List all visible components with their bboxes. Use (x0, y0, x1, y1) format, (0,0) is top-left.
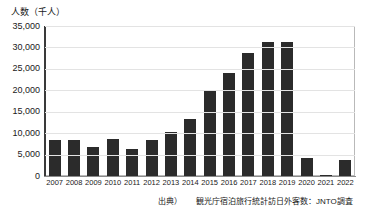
gridline (45, 112, 355, 113)
bars-layer (45, 26, 355, 176)
bar (223, 73, 235, 176)
x-axis-tick-label: 2019 (278, 178, 297, 188)
source-label: 出典） (158, 197, 182, 206)
y-axis-tick-label: 35,000 (2, 22, 40, 31)
x-axis-tick-label: 2014 (181, 178, 200, 188)
gridline (45, 155, 355, 156)
y-axis-tick-label: 25,000 (2, 64, 40, 73)
x-axis-tick-label: 2007 (45, 178, 64, 188)
x-axis-tick-label: 2012 (142, 178, 161, 188)
bar (146, 140, 158, 176)
x-axis-tick-label: 2008 (64, 178, 83, 188)
y-axis-tick-label: 15,000 (2, 107, 40, 116)
bar (68, 140, 80, 176)
y-axis-tick-label: 0 (2, 172, 40, 181)
gridline (45, 69, 355, 70)
x-axis-tick-label: 2015 (200, 178, 219, 188)
x-axis-tick-label: 2021 (316, 178, 335, 188)
bar (126, 149, 138, 176)
bar (49, 140, 61, 176)
x-axis-line (44, 176, 356, 177)
x-axis-tick-label: 2022 (336, 178, 355, 188)
x-axis-tick-label: 2017 (239, 178, 258, 188)
bar (242, 53, 254, 176)
x-axis-tick-label: 2020 (297, 178, 316, 188)
source-text: 観光庁宿泊旅行統計訪日外客数：JNTO調査 (196, 197, 353, 206)
gridline (45, 133, 355, 134)
bar (320, 175, 332, 176)
source-footnote: 出典）観光庁宿泊旅行統計訪日外客数：JNTO調査 (158, 196, 353, 207)
x-axis-tick-label: 2010 (103, 178, 122, 188)
y-axis-tick-label: 5,000 (2, 150, 40, 159)
x-axis-tick-label: 2013 (161, 178, 180, 188)
y-axis-tick-labels: 05,00010,00015,00020,00025,00030,00035,0… (0, 0, 40, 215)
gridline (45, 26, 355, 27)
bar (339, 160, 351, 176)
y-axis-tick-label: 20,000 (2, 86, 40, 95)
bar-chart: 人数（千人） 05,00010,00015,00020,00025,00030,… (0, 0, 376, 215)
bar (184, 119, 196, 176)
bar (107, 139, 119, 176)
bar (301, 158, 313, 176)
x-axis-tick-label: 2011 (123, 178, 142, 188)
gridline (45, 90, 355, 91)
y-axis-tick-label: 30,000 (2, 43, 40, 52)
x-axis-tick-label: 2016 (219, 178, 238, 188)
bar (87, 147, 99, 176)
x-axis-tick-labels: 2007200820092010201120122013201420152016… (45, 178, 355, 192)
x-axis-tick-label: 2009 (84, 178, 103, 188)
y-axis-tick-label: 10,000 (2, 129, 40, 138)
bar (281, 42, 293, 176)
x-axis-tick-label: 2018 (258, 178, 277, 188)
bar (262, 42, 274, 176)
gridline (45, 47, 355, 48)
